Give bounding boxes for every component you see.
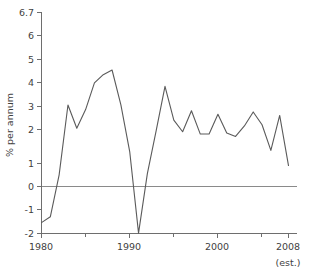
x-tick-label-1980: 1980 <box>29 241 53 252</box>
x-tick-label-2000: 2000 <box>205 241 229 252</box>
y-tick-label-6: 6 <box>28 30 34 41</box>
y-tick-label-3: 3 <box>28 101 34 112</box>
line-chart: % per annum 6.7 6 5 4 3 2 1 0 -1 -2 <box>0 0 309 276</box>
y-tick-label-neg2: -2 <box>25 228 34 239</box>
x-tick-label-2008: 2008 <box>276 241 300 252</box>
y-tick-label-2: 2 <box>28 124 34 135</box>
x-tick-label-1990: 1990 <box>117 241 141 252</box>
y-tick-label-6-7: 6.7 <box>19 7 34 18</box>
y-tick-label-4: 4 <box>28 77 34 88</box>
y-tick-marks <box>37 13 42 234</box>
y-tick-label-0: 0 <box>28 181 34 192</box>
y-tick-label-1: 1 <box>28 158 34 169</box>
data-series-line <box>42 70 289 233</box>
estimate-note: (est.) <box>276 257 301 268</box>
x-tick-marks <box>42 234 289 239</box>
y-axis-title: % per annum <box>4 93 15 157</box>
y-tick-label-neg1: -1 <box>25 204 34 215</box>
y-tick-label-5: 5 <box>28 54 34 65</box>
chart-figure: % per annum 6.7 6 5 4 3 2 1 0 -1 -2 <box>0 0 309 276</box>
